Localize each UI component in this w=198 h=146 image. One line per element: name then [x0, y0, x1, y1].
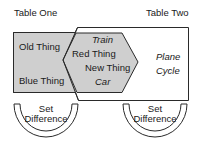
table-one-title: Table One	[14, 8, 57, 18]
table-two-item: Cycle	[156, 66, 180, 76]
intersection-item: Train	[92, 35, 113, 45]
table-two-title: Table Two	[146, 8, 189, 18]
table-one-item: Blue Thing	[19, 76, 64, 86]
left-set-difference-label-2: Difference	[14, 114, 78, 124]
right-set-difference-label-2: Difference	[123, 114, 187, 124]
intersection-item: New Thing	[85, 63, 130, 73]
table-two-item: Plane	[156, 52, 180, 62]
intersection-item: Car	[95, 77, 110, 87]
intersection-item: Red Thing	[72, 49, 116, 59]
table-one-item: Old Thing	[19, 42, 60, 52]
